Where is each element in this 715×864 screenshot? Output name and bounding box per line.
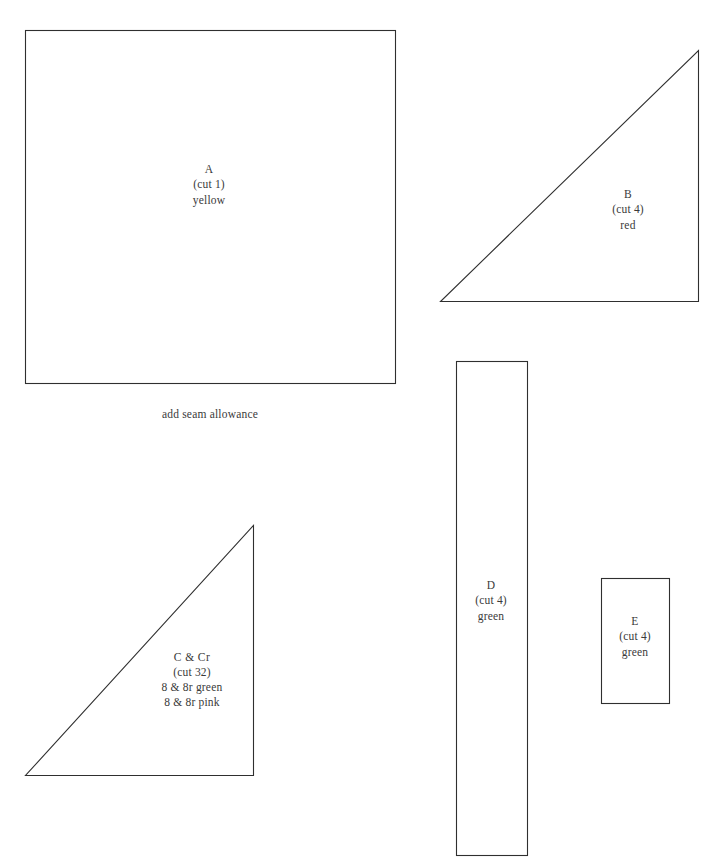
pattern-shapes-canvas [0, 0, 715, 864]
pattern-piece-b [441, 51, 699, 302]
pattern-sheet: A(cut 1)yellowB(cut 4)redC & Cr(cut 32)8… [0, 0, 715, 864]
pattern-piece-c [26, 526, 254, 776]
pattern-piece-d [457, 362, 528, 856]
seam-allowance-note: add seam allowance [162, 408, 258, 420]
pattern-piece-e [602, 579, 670, 704]
pattern-piece-a [26, 31, 396, 384]
